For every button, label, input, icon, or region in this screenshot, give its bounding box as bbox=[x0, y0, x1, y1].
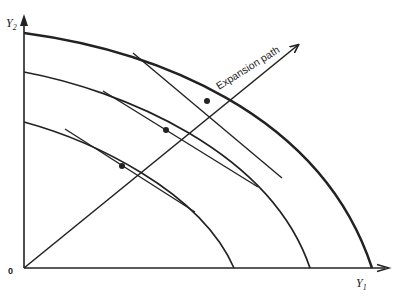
y-axis-arrow-icon bbox=[20, 14, 28, 26]
tangency-point-outer bbox=[204, 98, 210, 104]
x-axis-label: Y1 bbox=[356, 276, 367, 292]
ppf-diagram: Y2 Y1 0 Expansion path bbox=[0, 0, 399, 296]
inner-frontier-curve bbox=[24, 122, 234, 268]
tangency-point-middle bbox=[163, 127, 169, 133]
tangent-lines bbox=[65, 53, 282, 212]
origin-label: 0 bbox=[8, 266, 13, 276]
y-axis-label: Y2 bbox=[6, 16, 17, 32]
tangent-line-inner bbox=[65, 129, 195, 212]
tangency-point-inner bbox=[119, 163, 125, 169]
middle-frontier-curve bbox=[24, 72, 310, 268]
